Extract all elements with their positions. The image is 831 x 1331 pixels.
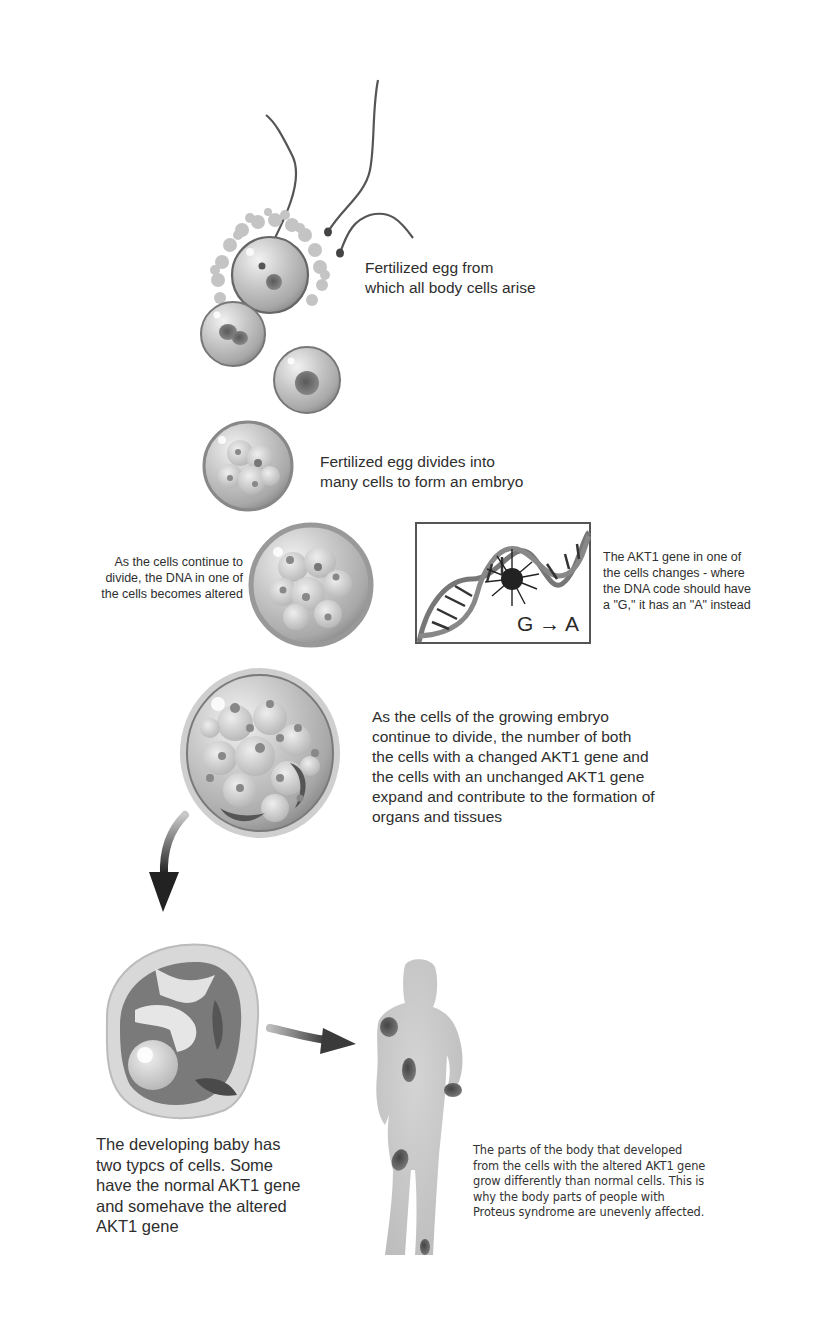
dna-panel: G → A <box>415 522 591 644</box>
fetus-in-womb-illustration <box>95 940 275 1125</box>
mutation-from: G <box>517 612 533 635</box>
arrow-right-icon <box>268 1020 358 1060</box>
caption-growing-embryo: As the cells of the growing embryo conti… <box>372 707 692 827</box>
caption-fertilized-egg: Fertilized egg from which all body cells… <box>365 258 625 298</box>
mutation-label: G → A <box>517 612 579 636</box>
morula-illustration <box>200 418 300 518</box>
human-silhouette-illustration <box>365 955 475 1270</box>
arrow-down-icon <box>135 810 195 920</box>
caption-affected-body: The parts of the body that developed fro… <box>473 1143 773 1221</box>
growing-embryo-illustration <box>180 668 340 838</box>
caption-embryo: Fertilized egg divides into many cells t… <box>320 452 600 492</box>
mutation-to: A <box>565 612 579 635</box>
caption-mutation-left: As the cells continue to divide, the DNA… <box>40 554 243 602</box>
mutation-arrow-icon: → <box>539 612 560 635</box>
caption-developing-baby: The developing baby has two typcs of cel… <box>96 1134 326 1237</box>
dividing-cells-illustration <box>195 300 355 430</box>
embryo-mutation-illustration <box>248 522 378 652</box>
caption-mutation-right: The AKT1 gene in one of the cells change… <box>603 549 813 613</box>
